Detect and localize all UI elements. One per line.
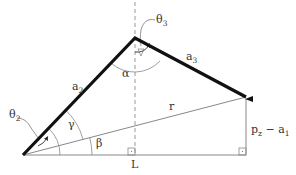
label-theta2: θ2 bbox=[9, 108, 21, 123]
label-a3: a3 bbox=[186, 50, 198, 65]
label-gamma: γ bbox=[68, 118, 75, 131]
diagram-canvas: a2 a3 θ2 θ3 α γ β r L pz − a1 bbox=[0, 0, 296, 175]
label-L: L bbox=[131, 158, 139, 171]
label-alpha: α bbox=[122, 67, 130, 80]
label-beta: β bbox=[96, 137, 102, 150]
arm-kinematics-diagram: a2 a3 θ2 θ3 α γ β r L pz − a1 bbox=[0, 0, 296, 175]
theta2-leader bbox=[17, 118, 40, 140]
r-line bbox=[23, 97, 246, 155]
label-a2: a2 bbox=[72, 80, 84, 95]
label-r: r bbox=[169, 100, 175, 113]
label-theta3: θ3 bbox=[156, 13, 168, 28]
label-pz-minus-a1: pz − a1 bbox=[251, 123, 290, 138]
outer-arc bbox=[49, 128, 60, 155]
beta-arc bbox=[90, 138, 92, 155]
